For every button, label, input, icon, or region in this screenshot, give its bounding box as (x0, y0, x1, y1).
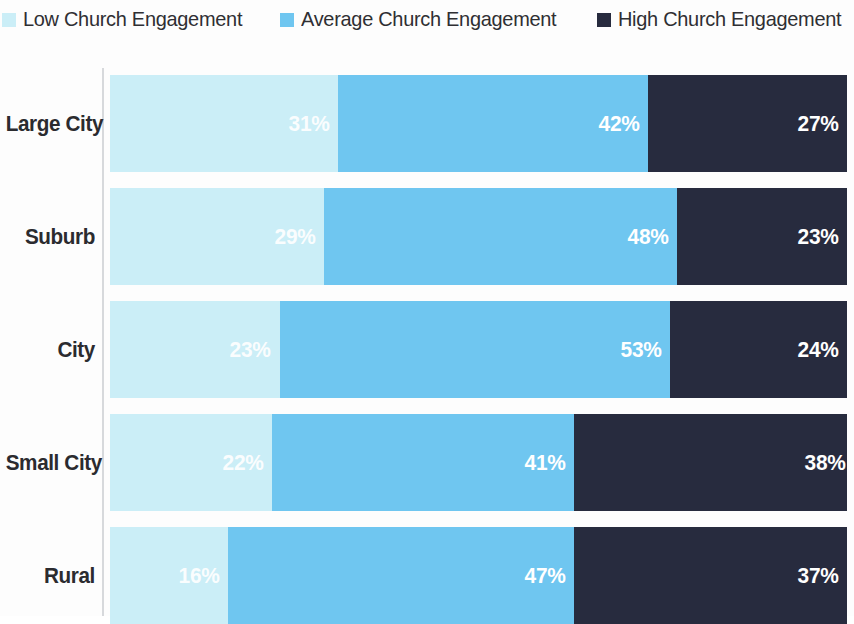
category-label-large-city: Large City (6, 75, 95, 172)
segment-value-label: 23% (230, 337, 280, 363)
bar-segment-high: 23% (677, 188, 847, 285)
bar-row: City23%53%24% (0, 301, 854, 398)
bar-segment-low: 29% (110, 188, 324, 285)
segment-value-label: 37% (797, 563, 847, 589)
segment-value-label: 48% (628, 224, 678, 250)
segment-value-label: 22% (223, 450, 273, 476)
bar-segment-average: 47% (228, 527, 574, 624)
category-label-suburb: Suburb (6, 188, 95, 285)
bar-segment-average: 48% (324, 188, 678, 285)
segment-value-label: 31% (289, 111, 339, 137)
segment-value-label: 38% (805, 450, 847, 476)
stacked-bar: 29%48%23% (110, 188, 847, 285)
segment-value-label: 41% (525, 450, 575, 476)
bar-segment-high: 24% (670, 301, 847, 398)
segment-value-label: 47% (525, 563, 575, 589)
stacked-bar: 22%41%38% (110, 414, 847, 511)
bar-segment-average: 41% (272, 414, 574, 511)
category-label-city: City (6, 301, 95, 398)
segment-value-label: 16% (178, 563, 228, 589)
bar-segment-average: 53% (280, 301, 671, 398)
category-label-rural: Rural (6, 527, 95, 624)
bar-segment-low: 16% (110, 527, 228, 624)
category-label-small-city: Small City (6, 414, 95, 511)
segment-value-label: 23% (797, 224, 847, 250)
segment-value-label: 29% (274, 224, 324, 250)
segment-value-label: 24% (797, 337, 847, 363)
segment-value-label: 27% (797, 111, 847, 137)
segment-value-label: 42% (598, 111, 648, 137)
bar-row: Rural16%47%37% (0, 527, 854, 624)
bar-segment-high: 38% (574, 414, 847, 511)
bar-segment-high: 37% (574, 527, 847, 624)
bar-segment-low: 31% (110, 75, 338, 172)
segment-value-label: 53% (621, 337, 671, 363)
bar-row: Suburb29%48%23% (0, 188, 854, 285)
stacked-bar: 23%53%24% (110, 301, 847, 398)
bar-row: Small City22%41%38% (0, 414, 854, 511)
bar-row: Large City31%42%27% (0, 75, 854, 172)
stacked-bar: 31%42%27% (110, 75, 847, 172)
bar-segment-low: 23% (110, 301, 280, 398)
stacked-bar: 16%47%37% (110, 527, 847, 624)
bar-segment-high: 27% (648, 75, 847, 172)
bar-segment-average: 42% (338, 75, 648, 172)
bar-segment-low: 22% (110, 414, 272, 511)
